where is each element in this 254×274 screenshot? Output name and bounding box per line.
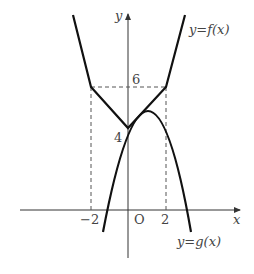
curve-label-g: y=g(x): [176, 234, 221, 249]
curve-f: [73, 15, 185, 128]
tick-label-2: 2: [161, 212, 169, 227]
tick-label-4: 4: [114, 130, 122, 145]
tick-label-neg2: −2: [80, 212, 99, 227]
curve-label-f: y=f(x): [188, 22, 230, 37]
x-axis-label: x: [233, 212, 241, 227]
coordinate-plane: y x O −2 2 6 4 y=f(x) y=g(x): [0, 0, 254, 274]
tick-label-6: 6: [132, 72, 140, 87]
graph-figure: y x O −2 2 6 4 y=f(x) y=g(x): [0, 0, 254, 274]
origin-label: O: [134, 212, 145, 227]
y-axis-label: y: [114, 8, 123, 23]
